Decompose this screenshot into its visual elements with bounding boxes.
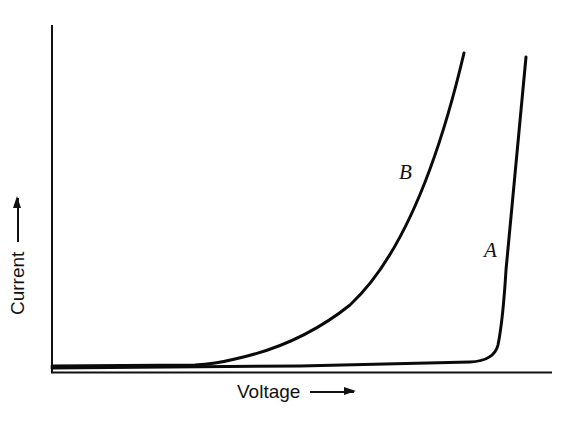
arrow-up-icon	[17, 198, 19, 242]
curve-b-label: B	[399, 160, 412, 185]
curve-b	[52, 53, 464, 366]
y-axis-label: Current	[6, 165, 30, 315]
x-axis-label-text: Voltage	[237, 381, 300, 403]
x-axis-label: Voltage	[237, 380, 354, 404]
curve-a	[52, 57, 526, 368]
iv-chart	[0, 0, 575, 427]
y-axis-label-text: Current	[7, 252, 29, 315]
curve-a-label: A	[484, 238, 497, 263]
arrow-right-icon	[310, 391, 354, 393]
